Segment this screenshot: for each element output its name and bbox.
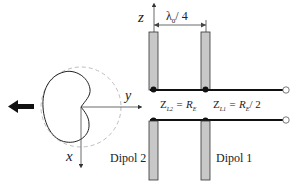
zl1-equals: = R — [229, 98, 246, 110]
spacing-label: λ0/ 4 — [166, 10, 188, 25]
feed-junction-dipole1-upper — [203, 87, 209, 93]
impedance-zl2-label: ZL2 = RE — [160, 99, 196, 112]
dipole-1-label: Dipol 1 — [216, 152, 252, 164]
feed-terminal-upper — [283, 87, 289, 93]
zl1-tail: / 2 — [249, 98, 260, 110]
main-beam-arrow-icon — [8, 100, 34, 113]
zl2-subscript: L2 — [167, 106, 173, 112]
feed-terminal-lower — [283, 117, 289, 123]
zl1-symbol: Z — [213, 98, 220, 110]
zl2-symbol: Z — [160, 98, 167, 110]
impedance-zl1-label: ZL1 = RE/ 2 — [213, 99, 261, 112]
zl1-subscript: L1 — [220, 106, 226, 112]
feed-junction-dipole2-upper — [151, 87, 157, 93]
dipole-2-lower — [149, 121, 158, 180]
spacing-tail: / 4 — [175, 9, 187, 23]
dipole-1-lower — [201, 121, 210, 180]
dipole-2-upper — [149, 32, 158, 90]
z-axis-label: z — [138, 10, 144, 25]
zl2-eq-subscript: E — [193, 106, 197, 112]
dipole-1-upper — [201, 32, 210, 90]
dipole-2-label: Dipol 2 — [110, 152, 146, 164]
y-axis-label: y — [125, 89, 131, 103]
x-axis-label: x — [66, 149, 73, 164]
zl2-equals: = R — [176, 98, 193, 110]
